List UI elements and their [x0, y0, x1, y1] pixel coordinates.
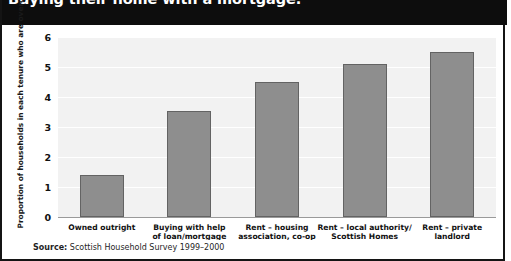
source-note: Source: Scottish Household Survey 1999–2…: [33, 243, 224, 252]
bar[interactable]: [255, 82, 299, 217]
y-axis-tick-label: 3: [44, 122, 51, 133]
bar-group: Rent – privatelandlord: [408, 37, 496, 217]
source-label: Source:: [33, 243, 67, 252]
bar-group: Owned outright: [58, 37, 146, 217]
y-axis-tick-label: 5: [44, 62, 51, 73]
bar[interactable]: [80, 175, 124, 217]
y-axis-tick-label: 4: [44, 92, 51, 103]
chart-title-band: Buying their home with a mortgage.: [2, 0, 507, 25]
plot-area: 0123456Owned outrightBuying with helpof …: [58, 37, 496, 218]
bar[interactable]: [167, 111, 211, 218]
y-axis-tick-label: 0: [44, 212, 51, 223]
source-value: Scottish Household Survey 1999–2000: [70, 243, 225, 252]
bar-group: Rent – housingassociation, co-op: [233, 37, 321, 217]
y-axis-label: Proportion of households in each tenure …: [4, 31, 38, 231]
chart-title: Buying their home with a mortgage.: [8, 0, 301, 7]
plot-area-wrapper: Proportion of households in each tenure …: [2, 25, 503, 238]
x-axis-tick-label: Rent – privatelandlord: [393, 223, 511, 241]
bar-group: Buying with helpof loan/mortgage: [146, 37, 234, 217]
x-axis-tick-line: Rent – private: [393, 223, 511, 232]
source-row: Source: Scottish Household Survey 1999–2…: [2, 240, 503, 258]
y-axis-tick-label: 1: [44, 182, 51, 193]
y-axis-label-text: Proportion of households in each tenure …: [16, 34, 26, 229]
bar-group: Rent – local authority/Scottish Homes: [321, 37, 409, 217]
bar[interactable]: [343, 64, 387, 217]
y-axis-tick-label: 2: [44, 152, 51, 163]
y-axis-tick-label: 6: [44, 32, 51, 43]
bar[interactable]: [430, 52, 474, 217]
